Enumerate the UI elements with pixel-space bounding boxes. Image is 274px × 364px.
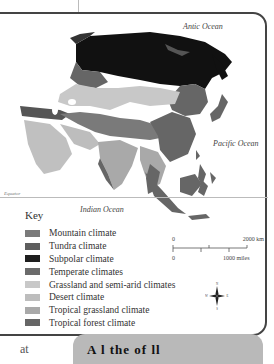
legend-label: Subpolar climate [49,254,114,264]
equator-line [0,197,268,198]
asia-climate-map [0,14,268,194]
scale-km-end: 2000 km [243,236,264,242]
legend-item-tropical-forest: Tropical forest climate [25,317,175,330]
legend-label: Tropical grassland climate [49,305,149,315]
scale-mi-end: 1000 miles [223,255,250,261]
key-title: Key [25,209,43,221]
scale-mi-start: 0 [172,255,175,261]
legend-item-tropical-grassland: Tropical grassland climate [25,304,175,317]
scale-km-start: 0 [172,236,175,242]
compass-rose-icon: N S W E [205,282,229,310]
swatch-tundra [25,243,40,250]
legend-item-tundra: Tundra climate [25,240,175,253]
legend-item-grassland: Grassland and semi-arid climates [25,278,175,291]
scale-line [172,245,252,253]
legend-item-mountain: Mountain climate [25,227,175,240]
legend-label: Grassland and semi-arid climates [49,280,175,290]
pacific-ocean-label: Pacific Ocean [213,139,259,148]
legend-item-desert: Desert climate [25,291,175,304]
arctic-ocean-label: Antic Ocean [183,22,223,31]
swatch-subpolar [25,255,40,262]
partial-body-text: at [20,342,29,357]
page-divider-line [78,0,91,12]
caption-box-text: A l the of ll [87,342,161,358]
legend-label: Tundra climate [49,241,106,251]
svg-text:S: S [216,307,218,310]
indonesia-map-fragment [140,170,230,220]
indian-ocean-label: Indian Ocean [80,205,124,214]
swatch-grassland [25,281,40,288]
swatch-desert [25,294,40,301]
swatch-tropical-grassland [25,307,40,314]
svg-text:E: E [227,294,229,298]
scale-bar: 0 2000 km 0 1000 miles [172,236,264,276]
legend-label: Mountain climate [49,228,116,238]
legend-label: Desert climate [49,292,104,302]
swatch-mountain [25,230,40,237]
climate-legend: Mountain climate Tundra climate Subpolar… [25,227,175,329]
swatch-temperate [25,268,40,275]
legend-label: Temperate climates [49,267,123,277]
legend-item-subpolar: Subpolar climate [25,253,175,266]
svg-text:W: W [205,294,208,298]
svg-text:N: N [216,282,219,286]
swatch-tropical-forest [25,319,40,326]
legend-label: Tropical forest climate [49,318,135,328]
equator-label: Equator [4,191,20,196]
legend-item-temperate: Temperate climates [25,265,175,278]
